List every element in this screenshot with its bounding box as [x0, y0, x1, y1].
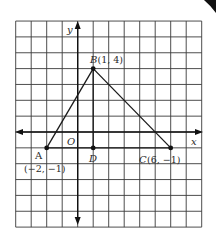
- x-axis-left-arrow-icon: [15, 129, 23, 135]
- x-axis-label: x: [191, 136, 197, 147]
- grid: [16, 21, 202, 227]
- segment-bc: [93, 69, 171, 148]
- point-c-name: C: [139, 154, 147, 165]
- point-a-name: A: [34, 150, 43, 161]
- point-c: [168, 146, 173, 151]
- y-axis-up-arrow-icon: [75, 21, 81, 29]
- point-d: [91, 146, 96, 151]
- point-d-name: D: [88, 153, 97, 164]
- point-a: [44, 146, 49, 151]
- coordinate-plane-diagram: y x O B (1, 4) A (−2, −1) D C (6, −1): [0, 0, 216, 241]
- y-axis-down-arrow-icon: [75, 217, 81, 225]
- origin-label: O: [67, 136, 75, 147]
- point-b-name: B: [89, 54, 97, 65]
- y-axis-label: y: [66, 24, 73, 35]
- point-b: [91, 66, 96, 71]
- point-b-coord: (1, 4): [98, 54, 124, 65]
- point-a-coord: (−2, −1): [24, 163, 65, 174]
- y-axis: [75, 21, 81, 225]
- page-corner-shadow: [204, 0, 216, 13]
- point-c-coord: (6, −1): [147, 154, 181, 165]
